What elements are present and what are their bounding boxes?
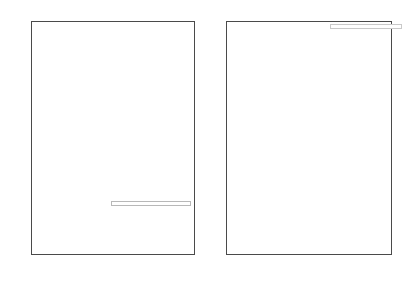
roc-panel	[0, 0, 204, 303]
roc-axes	[31, 21, 195, 255]
det-panel	[204, 0, 408, 303]
det-legend[interactable]	[330, 24, 402, 29]
det-axes	[226, 21, 392, 255]
roc-legend[interactable]	[111, 201, 191, 206]
figure-canvas	[0, 0, 408, 303]
